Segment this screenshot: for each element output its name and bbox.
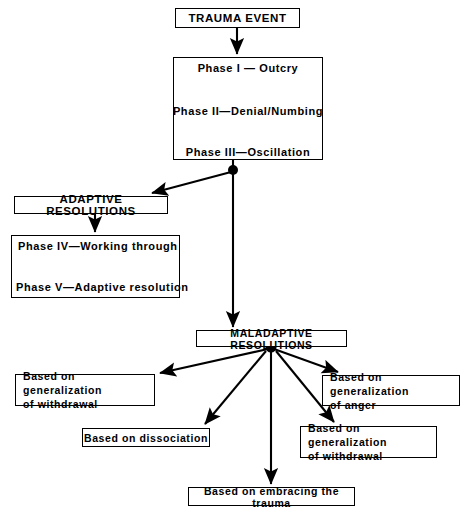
node-outcome-withdrawal-left-line1: Based on generalization	[23, 369, 154, 397]
node-adaptive-resolutions: ADAPTIVE RESOLUTIONS	[14, 196, 168, 214]
node-phase-5: Phase V—Adaptive resolution	[16, 281, 188, 293]
node-trauma-event-label: TRAUMA EVENT	[188, 12, 286, 24]
node-phase-2: Phase II—Denial/Numbing	[170, 105, 326, 117]
node-phase-4: Phase IV—Working through	[18, 240, 183, 252]
node-outcome-withdrawal-right-line2: of withdrawal	[308, 449, 436, 463]
edge-hub-to-adaptive	[152, 172, 231, 193]
node-trauma-event: TRAUMA EVENT	[175, 8, 300, 28]
node-phase-1: Phase I — Outcry	[173, 62, 323, 74]
node-outcome-embracing-label: Based on embracing the trauma	[189, 485, 354, 509]
oscillation-branch-hub	[228, 165, 238, 175]
edge-maladaptive-to-dissociation	[205, 351, 266, 424]
node-outcome-anger-line2: of anger	[330, 398, 459, 412]
node-phase-3: Phase III—Oscillation	[173, 146, 323, 158]
node-adaptive-resolutions-label: ADAPTIVE RESOLUTIONS	[15, 193, 167, 217]
node-phase-5-label: Phase V—Adaptive resolution	[16, 281, 189, 293]
flowchart-canvas: TRAUMA EVENT Phase I — Outcry Phase II—D…	[0, 0, 473, 519]
node-phase-3-label: Phase III—Oscillation	[186, 146, 310, 158]
node-outcome-embracing: Based on embracing the trauma	[188, 487, 355, 506]
node-maladaptive-resolutions: MALADAPTIVE RESOLUTIONS	[196, 330, 347, 347]
node-outcome-anger: Based on generalization of anger	[322, 375, 460, 406]
node-outcome-anger-line1: Based on generalization	[330, 370, 459, 398]
node-phase-2-label: Phase II—Denial/Numbing	[173, 105, 323, 117]
node-outcome-dissociation: Based on dissociation	[82, 428, 210, 447]
node-phase-1-label: Phase I — Outcry	[198, 62, 299, 74]
node-outcome-withdrawal-left: Based on generalization of withdrawal	[15, 374, 155, 406]
edge-maladaptive-to-withdrawal-left	[160, 349, 268, 373]
node-outcome-withdrawal-right: Based on generalization of withdrawal	[300, 426, 437, 458]
node-maladaptive-resolutions-label: MALADAPTIVE RESOLUTIONS	[197, 327, 346, 351]
node-outcome-dissociation-label: Based on dissociation	[84, 432, 208, 444]
node-outcome-withdrawal-right-line1: Based on generalization	[308, 421, 436, 449]
edge-maladaptive-to-anger	[274, 349, 338, 372]
node-phase-4-label: Phase IV—Working through	[18, 240, 178, 252]
node-outcome-withdrawal-left-line2: of withdrawal	[23, 397, 154, 411]
